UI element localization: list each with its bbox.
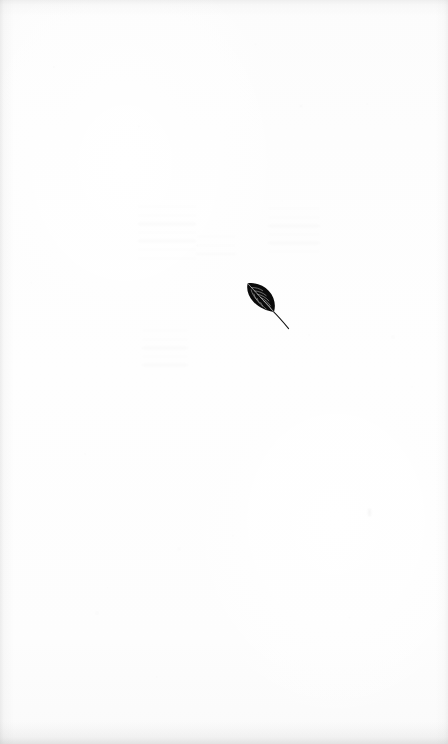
ghost-block-upper-left: [138, 206, 196, 260]
leaf-illustration: leaf: [238, 274, 300, 336]
ghost-smudge-center: [196, 236, 236, 262]
ghost-block-lower-left: [142, 330, 188, 366]
speck-left-mid: [96, 612, 98, 614]
leaf-group: [247, 283, 288, 329]
speck-center-low: [178, 548, 180, 550]
speck-right-top: [300, 105, 302, 107]
leaf-stem-path: [273, 312, 288, 329]
speck-right-mid: [392, 336, 394, 338]
speck-right-lower: [368, 509, 371, 516]
paper-grain-texture: [0, 0, 448, 744]
scanned-page: leaf: [0, 0, 448, 744]
ghost-block-upper-right: [268, 208, 320, 252]
